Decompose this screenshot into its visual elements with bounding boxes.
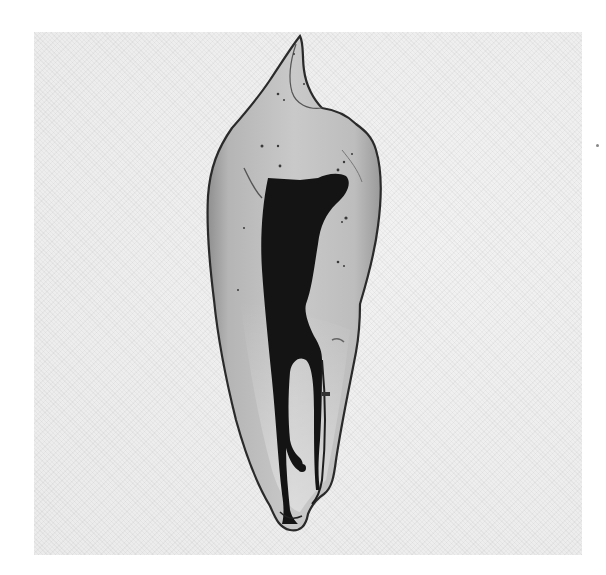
root-mark — [322, 392, 330, 396]
lateral-canal-bulb — [298, 464, 306, 472]
tooth-specimen — [0, 0, 606, 575]
dust-speck — [596, 144, 599, 147]
